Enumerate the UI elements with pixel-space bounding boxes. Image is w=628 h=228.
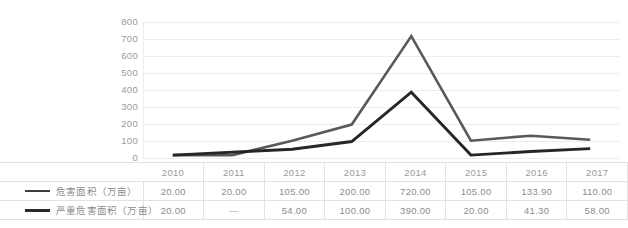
cell-harm-2010: 20.00	[143, 182, 204, 201]
table-header-row: 2010 2011 2012 2013 2014 2015 2016 2017	[0, 163, 628, 182]
y-tick-100: 100	[96, 136, 138, 146]
column-header-2014: 2014	[385, 163, 446, 182]
column-header-2017: 2017	[567, 163, 628, 182]
series-line-harm-area	[173, 36, 590, 155]
cell-harm-2016: 133.90	[506, 182, 567, 201]
legend-line-swatch-icon	[25, 209, 50, 212]
legend-label-harm-area: 危害面积（万亩）	[56, 184, 138, 198]
column-header-2016: 2016	[506, 163, 567, 182]
legend-item-severe-harm-area: 严重危害面积（万亩）	[0, 201, 143, 220]
cell-severe-2016: 41.30	[506, 201, 567, 220]
cell-harm-2012: 105.00	[264, 182, 325, 201]
cell-severe-2013: 100.00	[325, 201, 386, 220]
cell-severe-2014: 390.00	[385, 201, 446, 220]
table-row: 危害面积（万亩） 20.00 20.00 105.00 200.00 720.0…	[0, 182, 628, 201]
y-tick-600: 600	[96, 51, 138, 61]
legend-label-severe-harm-area: 严重危害面积（万亩）	[56, 203, 158, 217]
column-header-2015: 2015	[446, 163, 507, 182]
column-header-2010: 2010	[143, 163, 204, 182]
legend-line-swatch-icon	[25, 190, 50, 193]
chart-canvas	[0, 0, 628, 166]
legend-item-harm-area: 危害面积（万亩）	[0, 182, 143, 201]
cell-harm-2017: 110.00	[567, 182, 628, 201]
y-tick-800: 800	[96, 17, 138, 27]
chart-data-table: 2010 2011 2012 2013 2014 2015 2016 2017 …	[0, 162, 628, 228]
y-tick-500: 500	[96, 68, 138, 78]
cell-severe-2011: —	[204, 201, 265, 220]
cell-harm-2011: 20.00	[204, 182, 265, 201]
series-line-severe-harm-area	[173, 92, 590, 155]
cell-severe-2012: 54.00	[264, 201, 325, 220]
column-header-2011: 2011	[204, 163, 265, 182]
cell-severe-2015: 20.00	[446, 201, 507, 220]
column-header-2013: 2013	[325, 163, 386, 182]
chart-figure: 800 700 600 500 400 300 200 100 0 2010 2…	[0, 0, 628, 228]
column-header-2012: 2012	[264, 163, 325, 182]
table-row: 严重危害面积（万亩） 20.00 — 54.00 100.00 390.00 2…	[0, 201, 628, 220]
chart-plot-area: 800 700 600 500 400 300 200 100 0	[0, 0, 628, 166]
data-table: 2010 2011 2012 2013 2014 2015 2016 2017 …	[0, 162, 628, 220]
cell-severe-2017: 58.00	[567, 201, 628, 220]
table-corner-cell	[0, 163, 143, 182]
y-tick-200: 200	[96, 119, 138, 129]
cell-harm-2014: 720.00	[385, 182, 446, 201]
y-axis-tick-labels: 800 700 600 500 400 300 200 100 0	[96, 0, 138, 166]
cell-harm-2015: 105.00	[446, 182, 507, 201]
y-tick-400: 400	[96, 85, 138, 95]
y-tick-700: 700	[96, 34, 138, 44]
y-tick-300: 300	[96, 102, 138, 112]
cell-harm-2013: 200.00	[325, 182, 386, 201]
